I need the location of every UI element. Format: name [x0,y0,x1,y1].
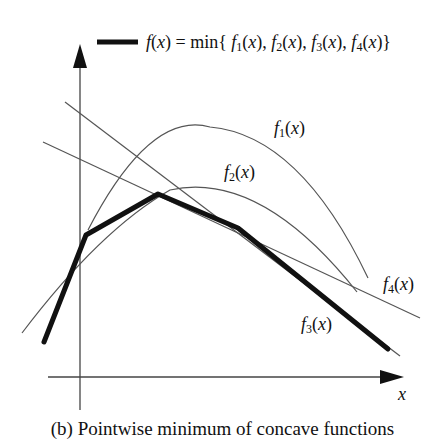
min-function-line [44,194,388,349]
x-axis-label: x [397,384,406,404]
f2-label: f2(x) [224,162,255,184]
figure-caption: (b) Pointwise minimum of concave functio… [0,418,445,440]
f3-label: f3(x) [301,314,332,336]
f1-curve [88,125,368,278]
x-axis-arrow-icon [380,370,404,384]
f4-label: f4(x) [383,274,414,296]
diagram-canvas: f(x) = min{ f1(x), f2(x), f3(x), f4(x)} … [0,0,445,448]
f1-label: f1(x) [274,118,305,140]
legend-text: f(x) = min{ f1(x), f2(x), f3(x), f4(x)} [146,32,391,54]
y-axis-arrow-icon [73,44,87,68]
